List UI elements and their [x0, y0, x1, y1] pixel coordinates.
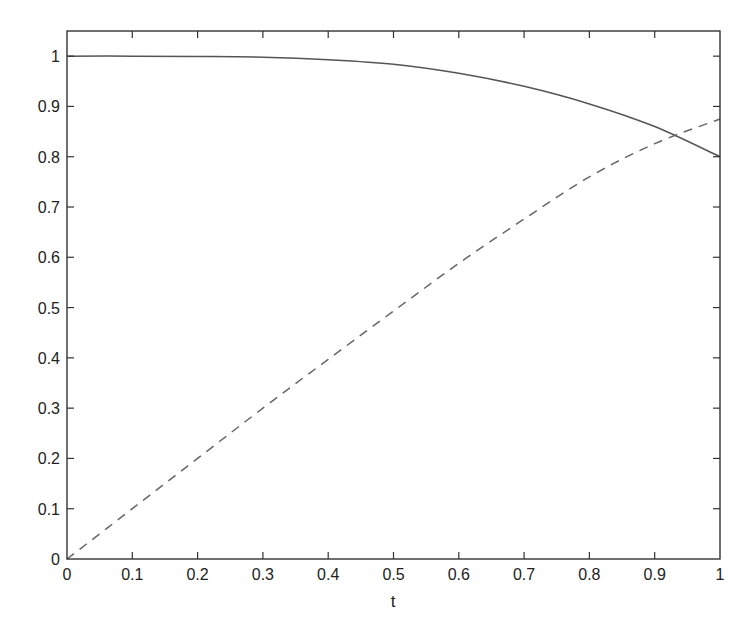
y-tick-label: 0.6 — [38, 249, 60, 266]
x-tick-label: 0.8 — [578, 566, 600, 583]
x-tick-label: 1 — [716, 566, 725, 583]
x-tick-label: 0.9 — [644, 566, 666, 583]
series-dashed-line — [67, 119, 720, 559]
x-tick-label: 0.1 — [121, 566, 143, 583]
y-tick-label: 0.2 — [38, 450, 60, 467]
y-tick-label: 0 — [51, 551, 60, 568]
y-tick-label: 0.3 — [38, 400, 60, 417]
y-tick-label: 0.4 — [38, 350, 60, 367]
x-tick-label: 0.7 — [513, 566, 535, 583]
x-tick-label: 0.2 — [186, 566, 208, 583]
axes-frame — [67, 31, 720, 559]
x-tick-label: 0.5 — [382, 566, 404, 583]
y-tick-label: 0.9 — [38, 98, 60, 115]
series-layer — [67, 56, 720, 559]
line-chart: 00.10.20.30.40.50.60.70.80.9100.10.20.30… — [0, 0, 753, 634]
x-axis-label: t — [391, 592, 396, 611]
x-tick-label: 0.3 — [252, 566, 274, 583]
x-tick-label: 0.6 — [448, 566, 470, 583]
y-tick-label: 0.7 — [38, 199, 60, 216]
y-tick-label: 0.1 — [38, 501, 60, 518]
x-tick-label: 0 — [63, 566, 72, 583]
series-solid-line — [67, 56, 720, 157]
y-tick-label: 0.8 — [38, 149, 60, 166]
y-tick-label: 1 — [51, 48, 60, 65]
x-tick-label: 0.4 — [317, 566, 339, 583]
y-tick-label: 0.5 — [38, 300, 60, 317]
